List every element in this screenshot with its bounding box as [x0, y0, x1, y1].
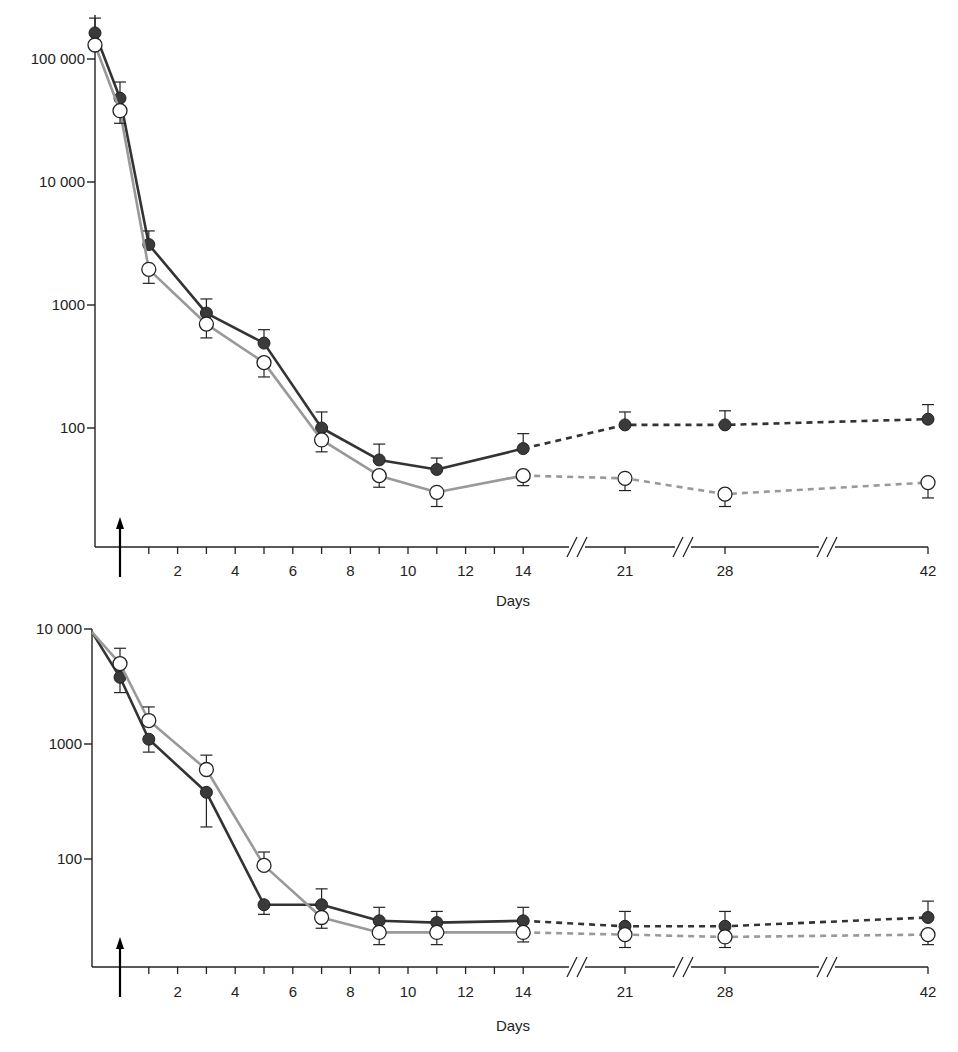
x-tick-label: 2 — [173, 983, 181, 1000]
open-circle-marker — [142, 262, 156, 276]
x-tick-label: 6 — [289, 562, 297, 579]
open-circle-marker — [113, 104, 127, 118]
y-tick-label: 100 — [57, 850, 82, 867]
filled-circle-marker — [431, 463, 443, 475]
x-tick-label: 2 — [173, 562, 181, 579]
series-line-solid — [95, 33, 523, 470]
x-tick-label: 42 — [920, 983, 937, 1000]
series-line-solid — [92, 632, 523, 932]
filled-circle-marker — [143, 733, 155, 745]
open-circle-marker — [257, 356, 271, 370]
open-circle-marker — [718, 487, 732, 501]
x-tick-label: 10 — [400, 562, 417, 579]
x-tick-label: 12 — [457, 562, 474, 579]
x-tick-label: 4 — [231, 983, 239, 1000]
x-tick-label: 8 — [346, 562, 354, 579]
filled-circle-marker — [258, 899, 270, 911]
dose-arrow-icon — [116, 517, 124, 529]
y-tick-label: 1000 — [49, 735, 82, 752]
open-circle-marker — [88, 38, 102, 52]
filled-circle-marker — [517, 443, 529, 455]
open-circle-marker — [199, 763, 213, 777]
series-line-solid — [95, 45, 523, 492]
filled-circle-marker — [89, 27, 101, 39]
open-circle-marker — [618, 928, 632, 942]
open-circle-marker — [257, 858, 271, 872]
open-circle-marker — [430, 925, 444, 939]
open-circle-marker — [618, 471, 632, 485]
y-tick-label: 10 000 — [36, 620, 82, 637]
x-axis-title: Days — [496, 592, 530, 609]
x-axis-title: Days — [496, 1017, 530, 1034]
x-tick-label: 28 — [717, 983, 734, 1000]
figure: 100 00010 00010001002468101214212842Days… — [0, 0, 958, 1052]
x-tick-label: 12 — [457, 983, 474, 1000]
open-circle-marker — [921, 928, 935, 942]
filled-circle-marker — [200, 786, 212, 798]
y-tick-label: 1000 — [52, 296, 85, 313]
x-tick-label: 42 — [920, 562, 937, 579]
y-tick-label: 100 — [60, 419, 85, 436]
x-tick-label: 21 — [617, 562, 634, 579]
filled-circle-marker — [373, 454, 385, 466]
x-tick-label: 6 — [289, 983, 297, 1000]
filled-circle-marker — [719, 419, 731, 431]
filled-circle-marker — [619, 419, 631, 431]
filled-circle-marker — [922, 911, 934, 923]
filled-circle-marker — [922, 413, 934, 425]
open-circle-marker — [372, 925, 386, 939]
dose-arrow-icon — [116, 937, 124, 949]
x-tick-label: 14 — [515, 983, 532, 1000]
filled-circle-marker — [316, 899, 328, 911]
top-panel-chart: 100 00010 00010001002468101214212842Days — [31, 15, 937, 609]
open-circle-marker — [921, 476, 935, 490]
x-tick-label: 10 — [400, 983, 417, 1000]
open-circle-marker — [430, 485, 444, 499]
x-tick-label: 4 — [231, 562, 239, 579]
x-tick-label: 14 — [515, 562, 532, 579]
open-circle-marker — [315, 433, 329, 447]
open-circle-marker — [315, 910, 329, 924]
x-tick-label: 28 — [717, 562, 734, 579]
open-circle-marker — [372, 469, 386, 483]
bottom-panel-chart: 10 00010001002468101214212842Days — [36, 620, 936, 1034]
y-tick-label: 100 000 — [31, 50, 85, 67]
open-circle-marker — [113, 657, 127, 671]
x-tick-label: 21 — [617, 983, 634, 1000]
open-circle-marker — [142, 714, 156, 728]
series-line-solid — [92, 632, 523, 922]
filled-circle-marker — [258, 337, 270, 349]
open-circle-marker — [718, 930, 732, 944]
open-circle-marker — [199, 317, 213, 331]
open-circle-marker — [516, 469, 530, 483]
y-tick-label: 10 000 — [39, 173, 85, 190]
open-circle-marker — [516, 925, 530, 939]
x-tick-label: 8 — [346, 983, 354, 1000]
